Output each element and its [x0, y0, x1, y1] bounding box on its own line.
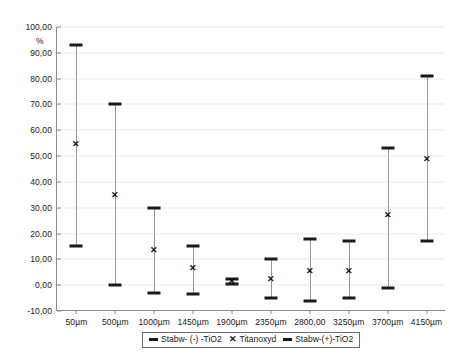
lower-deviation-marker [381, 286, 394, 289]
x-tick-mark [154, 310, 155, 314]
upper-deviation-marker [303, 237, 316, 240]
value-marker: ✕ [345, 266, 353, 275]
y-tick-label: 70,00 [30, 99, 57, 109]
upper-deviation-marker [342, 240, 355, 243]
y-tick-label: 60,00 [30, 125, 57, 135]
x-tick-label: 1450µm [177, 317, 209, 327]
y-gridline [57, 27, 445, 28]
y-tick-mark [57, 181, 61, 182]
lower-deviation-marker [303, 299, 316, 302]
value-marker: ✕ [228, 277, 236, 286]
y-tick-label: 90,00 [30, 48, 57, 58]
value-marker: ✕ [306, 266, 314, 275]
x-tick-mark [348, 310, 349, 314]
y-axis-title: % [36, 36, 44, 46]
lower-deviation-marker [70, 245, 83, 248]
x-tick-mark [76, 310, 77, 314]
upper-deviation-marker [148, 206, 161, 209]
value-marker: ✕ [189, 264, 197, 273]
x-tick-mark [387, 310, 388, 314]
x-tick-mark [193, 310, 194, 314]
lower-deviation-marker [109, 284, 122, 287]
legend-entry[interactable]: Stabw- (-) -TiO2 [149, 335, 222, 344]
value-marker: ✕ [72, 140, 80, 149]
chart-legend: Stabw- (-) -TiO2✕TitanoxydStabw-(+)-TiO2 [142, 332, 360, 348]
y-tick-label: -10,00 [27, 306, 57, 316]
y-tick-mark [57, 207, 61, 208]
upper-deviation-marker [187, 245, 200, 248]
y-gridline [57, 52, 445, 53]
y-tick-mark [57, 104, 61, 105]
legend-label: Stabw- (-) -TiO2 [161, 335, 222, 344]
plot-area: 100,0090,0080,0070,0060,0050,0040,0030,0… [56, 27, 445, 311]
legend-entry[interactable]: ✕Titanoxyd [229, 335, 277, 344]
value-marker: ✕ [267, 274, 275, 283]
x-tick-label: 3250µm [333, 317, 365, 327]
x-icon: ✕ [229, 335, 237, 344]
y-tick-mark [57, 311, 61, 312]
value-marker: ✕ [384, 211, 392, 220]
upper-deviation-marker [264, 258, 277, 261]
x-tick-label: 500µm [102, 317, 129, 327]
x-tick-label: 50µm [66, 317, 88, 327]
y-tick-mark [57, 130, 61, 131]
y-tick-label: 30,00 [30, 203, 57, 213]
y-tick-label: 10,00 [30, 254, 57, 264]
x-tick-mark [232, 310, 233, 314]
y-tick-label: 0,00 [35, 280, 57, 290]
y-tick-mark [57, 233, 61, 234]
lower-deviation-marker [148, 291, 161, 294]
y-tick-label: 80,00 [30, 74, 57, 84]
lower-deviation-marker [342, 297, 355, 300]
y-gridline [57, 78, 445, 79]
y-tick-mark [57, 78, 61, 79]
dash-icon [283, 338, 292, 341]
y-tick-label: 100,00 [25, 22, 57, 32]
legend-label: Titanoxyd [240, 335, 277, 344]
y-tick-mark [57, 259, 61, 260]
upper-deviation-marker [70, 44, 83, 47]
y-tick-mark [57, 52, 61, 53]
x-tick-label: 3700µm [372, 317, 404, 327]
x-tick-mark [115, 310, 116, 314]
y-tick-mark [57, 285, 61, 286]
x-tick-label: 1900µm [216, 317, 248, 327]
lower-deviation-marker [264, 297, 277, 300]
x-tick-mark [309, 310, 310, 314]
y-tick-label: 20,00 [30, 229, 57, 239]
value-marker: ✕ [111, 190, 119, 199]
upper-deviation-marker [420, 75, 433, 78]
value-marker: ✕ [150, 246, 158, 255]
y-tick-label: 40,00 [30, 177, 57, 187]
x-tick-mark [270, 310, 271, 314]
legend-label: Stabw-(+)-TiO2 [295, 335, 353, 344]
y-tick-mark [57, 27, 61, 28]
x-tick-label: 2350µm [255, 317, 287, 327]
lower-deviation-marker [420, 240, 433, 243]
x-tick-label: 4150µm [411, 317, 443, 327]
upper-deviation-marker [109, 103, 122, 106]
upper-deviation-marker [381, 147, 394, 150]
x-tick-mark [426, 310, 427, 314]
y-tick-mark [57, 156, 61, 157]
x-tick-label: 1000µm [139, 317, 171, 327]
legend-entry[interactable]: Stabw-(+)-TiO2 [283, 335, 353, 344]
lower-deviation-marker [187, 293, 200, 296]
value-marker: ✕ [423, 154, 431, 163]
y-tick-label: 50,00 [30, 151, 57, 161]
chart-canvas: % 100,0090,0080,0070,0060,0050,0040,0030… [0, 0, 475, 361]
x-tick-label: 2800,00 [294, 317, 325, 327]
dash-icon [149, 338, 158, 341]
